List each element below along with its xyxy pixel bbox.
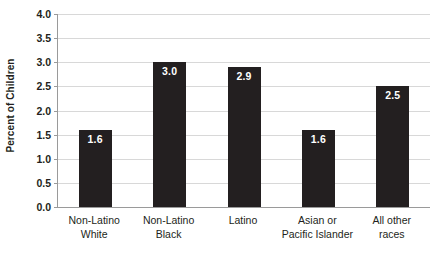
x-axis-tick-label: All otherraces (355, 214, 429, 241)
bar-value-label: 3.0 (153, 66, 186, 77)
bar: 3.0 (153, 62, 186, 207)
bar-value-label: 2.9 (228, 71, 261, 82)
bar-value-label: 1.6 (79, 134, 112, 145)
x-axis-tick-label-line: Latino (229, 214, 258, 226)
x-axis-tick-label-line: All other (373, 214, 412, 226)
bar: 2.5 (376, 86, 409, 207)
bar-value-label: 2.5 (376, 90, 409, 101)
x-axis-tick-label: Non-LatinoBlack (131, 214, 205, 241)
y-axis-tick-mark (54, 183, 58, 184)
y-axis-tick-mark (54, 207, 58, 208)
y-axis-tick-mark (54, 62, 58, 63)
bar-value-label: 1.6 (302, 134, 335, 145)
x-axis-tick-label-line: Non-Latino (69, 214, 120, 226)
x-axis-line (58, 207, 430, 208)
bar-chart: Percent of Children 4.03.53.02.52.01.51.… (0, 0, 431, 254)
bar: 1.6 (79, 130, 112, 207)
x-axis-tick-label-line: Pacific Islander (280, 228, 354, 242)
x-axis-tick-labels: Non-LatinoWhiteNon-LatinoBlackLatinoAsia… (57, 210, 429, 254)
y-axis-tick-mark (54, 159, 58, 160)
y-axis-tick-label: 0.5 (7, 178, 51, 189)
y-axis-tick-label: 4.0 (7, 9, 51, 20)
x-axis-tick-label-line: races (355, 228, 429, 242)
x-axis-tick-label: Asian orPacific Islander (280, 214, 354, 241)
plot-area: 1.63.02.91.62.5 (57, 14, 430, 207)
gridline (58, 38, 430, 39)
gridline (58, 14, 430, 15)
x-axis-tick-label: Non-LatinoWhite (57, 214, 131, 241)
y-axis-tick-label: 1.0 (7, 154, 51, 165)
y-axis-tick-label: 2.0 (7, 106, 51, 117)
y-axis-tick-label: 0.0 (7, 202, 51, 213)
x-axis-tick-label-line: White (57, 228, 131, 242)
y-axis-tick-mark (54, 38, 58, 39)
x-axis-tick-label: Latino (206, 214, 280, 228)
x-axis-tick-label-line: Asian or (298, 214, 337, 226)
gridline (58, 62, 430, 63)
y-axis-tick-label: 1.5 (7, 130, 51, 141)
x-axis-tick-label-line: Black (131, 228, 205, 242)
y-axis-tick-label: 2.5 (7, 81, 51, 92)
y-axis-tick-mark (54, 14, 58, 15)
y-axis-tick-labels: 4.03.53.02.52.01.51.00.50.0 (0, 14, 51, 207)
y-axis-tick-label: 3.0 (7, 57, 51, 68)
x-axis-tick-label-line: Non-Latino (143, 214, 194, 226)
y-axis-tick-mark (54, 86, 58, 87)
y-axis-tick-mark (54, 135, 58, 136)
y-axis-tick-mark (54, 111, 58, 112)
bar: 2.9 (228, 67, 261, 207)
bar: 1.6 (302, 130, 335, 207)
y-axis-tick-label: 3.5 (7, 33, 51, 44)
